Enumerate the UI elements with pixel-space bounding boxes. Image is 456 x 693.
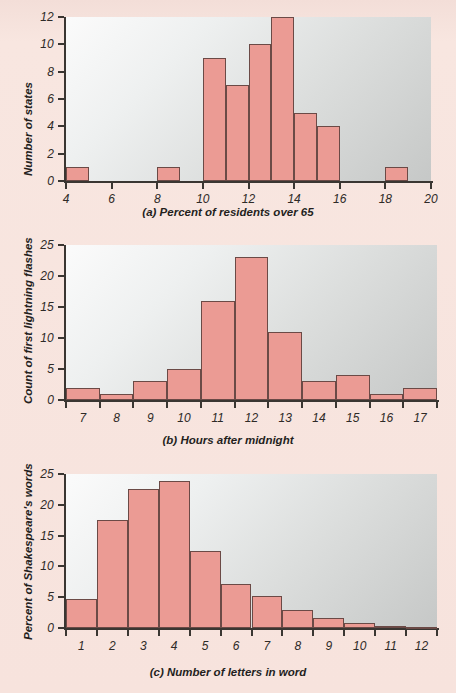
x-tick-c-8 (312, 630, 314, 636)
bar-a-8 (385, 167, 408, 181)
bar-c-2 (128, 489, 159, 628)
x-tick-b-9 (369, 402, 371, 408)
bar-b-2 (133, 381, 167, 400)
x-tick-a-8 (430, 183, 432, 189)
x-tick-label-c-10: 11 (384, 639, 396, 653)
x-tick-label-a-2: 8 (154, 192, 161, 206)
bar-a-1 (157, 167, 180, 181)
y-tick-label-a-0: 0 (47, 174, 54, 188)
y-tick-a-2 (58, 125, 64, 127)
x-tick-b-3 (166, 402, 168, 408)
bar-a-6 (294, 113, 317, 181)
y-tick-a-0 (58, 180, 64, 182)
x-tick-c-11 (405, 630, 407, 636)
x-tick-b-8 (335, 402, 337, 408)
x-tick-label-b-10: 17 (413, 411, 426, 425)
bar-b-9 (370, 394, 404, 400)
y-tick-a-3 (58, 98, 64, 100)
y-tick-label-b-5: 25 (40, 238, 54, 252)
bar-c-7 (282, 610, 313, 628)
y-tick-label-a-5: 10 (40, 37, 54, 51)
x-tick-label-b-3: 10 (177, 411, 190, 425)
x-tick-a-4 (248, 183, 250, 189)
y-tick-b-2 (58, 337, 64, 339)
y-tick-a-4 (58, 71, 64, 73)
y-tick-label-a-3: 6 (47, 92, 54, 106)
x-axis-b (64, 400, 439, 402)
chart-panel-a: Number of states 02468101246810121416182… (0, 0, 456, 230)
y-tick-label-b-0: 0 (47, 393, 54, 407)
x-tick-label-a-3: 10 (196, 192, 209, 206)
bar-c-8 (313, 618, 344, 628)
bar-c-1 (97, 520, 128, 628)
bar-b-7 (302, 381, 336, 400)
y-axis-title-a: Number of states (22, 82, 34, 176)
y-tick-c-4 (58, 504, 64, 506)
y-tick-a-6 (58, 16, 64, 18)
x-tick-label-b-2: 9 (147, 411, 154, 425)
y-axis-a (64, 17, 66, 183)
y-tick-label-c-4: 20 (40, 498, 54, 512)
x-tick-c-4 (189, 630, 191, 636)
x-tick-b-6 (267, 402, 269, 408)
bar-a-0 (66, 167, 89, 181)
bar-a-2 (203, 58, 226, 181)
x-tick-label-c-1: 2 (109, 639, 116, 653)
x-tick-label-b-4: 11 (212, 411, 224, 425)
y-tick-a-1 (58, 153, 64, 155)
x-tick-c-9 (343, 630, 345, 636)
y-axis-b (64, 245, 66, 402)
y-tick-label-b-1: 5 (47, 362, 54, 376)
x-tick-a-2 (156, 183, 158, 189)
bar-b-8 (336, 375, 370, 400)
y-tick-label-c-0: 0 (47, 621, 54, 635)
bar-c-10 (375, 626, 406, 628)
figure-page: Number of states 02468101246810121416182… (0, 0, 456, 693)
y-axis-title-b: Count of first lightning flashes (22, 237, 34, 404)
x-tick-b-10 (402, 402, 404, 408)
bar-c-0 (66, 599, 97, 628)
bar-c-5 (221, 584, 252, 628)
x-axis-title-b: (b) Hours after midnight (0, 434, 456, 446)
x-tick-label-a-5: 14 (287, 192, 300, 206)
bar-c-4 (190, 551, 221, 628)
x-tick-c-3 (158, 630, 160, 636)
x-tick-label-c-8: 9 (325, 639, 332, 653)
x-tick-label-b-8: 15 (346, 411, 359, 425)
x-tick-label-b-9: 16 (380, 411, 393, 425)
x-tick-c-0 (65, 630, 67, 636)
y-tick-b-3 (58, 306, 64, 308)
y-tick-label-b-3: 15 (40, 300, 54, 314)
y-tick-c-0 (58, 627, 64, 629)
bar-b-0 (66, 388, 100, 400)
x-tick-label-a-8: 20 (424, 192, 437, 206)
x-tick-a-3 (202, 183, 204, 189)
x-tick-c-10 (374, 630, 376, 636)
y-tick-b-0 (58, 399, 64, 401)
x-tick-c-6 (251, 630, 253, 636)
x-tick-label-a-0: 4 (63, 192, 70, 206)
x-tick-label-c-2: 3 (140, 639, 147, 653)
x-tick-c-2 (127, 630, 129, 636)
x-tick-a-6 (339, 183, 341, 189)
x-tick-label-a-7: 18 (379, 192, 392, 206)
y-tick-label-c-3: 15 (40, 529, 54, 543)
y-tick-b-4 (58, 275, 64, 277)
bar-a-5 (271, 17, 294, 181)
chart-panel-c: Percent of Shakespeare's words 051015202… (0, 458, 456, 693)
x-tick-label-a-6: 16 (333, 192, 346, 206)
x-tick-label-c-0: 1 (78, 639, 85, 653)
x-tick-label-b-0: 7 (80, 411, 87, 425)
x-tick-label-c-5: 6 (233, 639, 240, 653)
x-tick-label-c-11: 12 (415, 639, 428, 653)
x-tick-b-1 (99, 402, 101, 408)
x-tick-c-12 (436, 630, 438, 636)
x-tick-b-2 (132, 402, 134, 408)
y-tick-c-2 (58, 565, 64, 567)
x-tick-label-a-4: 12 (242, 192, 255, 206)
x-tick-label-c-3: 4 (171, 639, 178, 653)
y-tick-a-5 (58, 43, 64, 45)
bar-c-9 (344, 623, 375, 628)
bar-b-6 (268, 332, 302, 400)
y-tick-b-5 (58, 244, 64, 246)
